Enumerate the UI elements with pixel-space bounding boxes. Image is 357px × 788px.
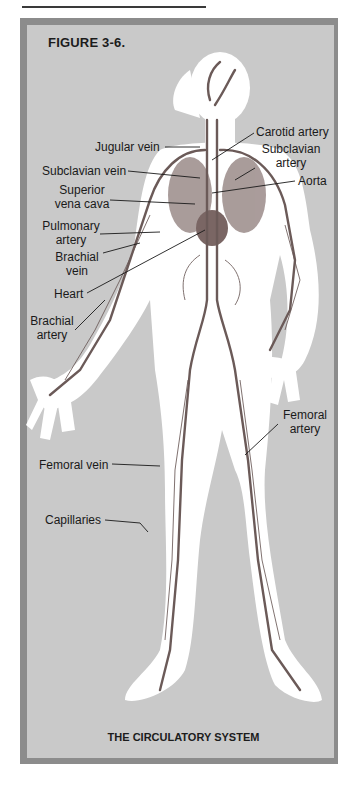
label-femoral-artery-line1: Femoral bbox=[280, 408, 330, 422]
label-subclavian-artery: Subclavian artery bbox=[258, 142, 324, 170]
label-heart: Heart bbox=[54, 287, 83, 301]
label-femoral-artery-line2: artery bbox=[280, 422, 330, 436]
label-pulmonary-artery: Pulmonary artery bbox=[40, 219, 102, 247]
label-pulmonary-artery-line1: Pulmonary bbox=[40, 219, 102, 233]
figure-title: FIGURE 3-6. bbox=[48, 35, 125, 50]
label-brachial-vein: Brachial vein bbox=[52, 250, 102, 278]
label-femoral-artery: Femoral artery bbox=[280, 408, 330, 436]
label-brachial-vein-line2: vein bbox=[52, 264, 102, 278]
label-subclavian-artery-line2: artery bbox=[258, 156, 324, 170]
label-pulmonary-artery-line2: artery bbox=[40, 233, 102, 247]
heart bbox=[196, 210, 228, 246]
label-brachial-artery-line2: artery bbox=[28, 328, 76, 342]
circulatory-body-illustration bbox=[0, 0, 357, 788]
label-superior-vena-cava-line2: vena cava bbox=[52, 197, 112, 211]
label-brachial-artery-line1: Brachial bbox=[28, 314, 76, 328]
label-superior-vena-cava: Superior vena cava bbox=[52, 183, 112, 211]
label-femoral-vein: Femoral vein bbox=[39, 458, 108, 472]
label-carotid-artery: Carotid artery bbox=[256, 125, 329, 139]
figure-caption: THE CIRCULATORY SYSTEM bbox=[0, 731, 357, 743]
label-capillaries: Capillaries bbox=[45, 513, 101, 527]
label-aorta: Aorta bbox=[298, 174, 327, 188]
label-subclavian-artery-line1: Subclavian bbox=[258, 142, 324, 156]
label-brachial-vein-line1: Brachial bbox=[52, 250, 102, 264]
label-subclavian-vein: Subclavian vein bbox=[42, 164, 126, 178]
label-jugular-vein: Jugular vein bbox=[95, 140, 160, 154]
label-superior-vena-cava-line1: Superior bbox=[52, 183, 112, 197]
label-brachial-artery: Brachial artery bbox=[28, 314, 76, 342]
